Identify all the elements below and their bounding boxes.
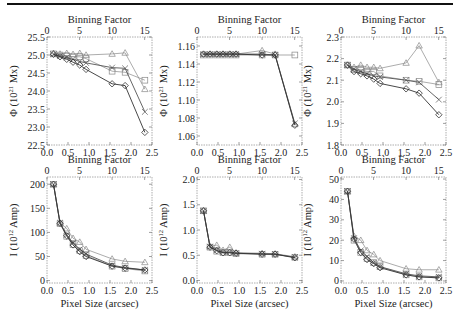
plot-frame [341, 177, 446, 283]
x-tick-label: 0.5 [356, 285, 369, 296]
y-tick-label: 20 [329, 235, 339, 246]
x-tick-label: 2.5 [440, 285, 453, 296]
x-tick-label: 2.0 [419, 285, 432, 296]
top-tick-label: 15 [434, 165, 444, 176]
top-tick-label: 5 [371, 165, 376, 176]
y-axis-title: I (1012 Amp) [301, 203, 314, 257]
figure: 0.00.51.01.52.02.5051015Binning Factor25… [0, 0, 460, 317]
top-tick-label: 0 [339, 165, 344, 176]
y-tick-label: 10 [329, 255, 339, 266]
bottom-axis-title: Pixel Size (arcsec) [354, 298, 433, 310]
x-tick-label: 1.0 [377, 285, 390, 296]
series-diamond [344, 188, 442, 281]
top-axis-title: Binning Factor [362, 154, 426, 165]
x-tick-label: 1.5 [398, 285, 411, 296]
top-tick-label: 10 [401, 165, 411, 176]
x-tick-label: 0.0 [335, 285, 348, 296]
y-tick-label: 30 [329, 214, 339, 225]
series-square [345, 188, 442, 280]
chart-current-bottom-right: 0.00.51.01.52.02.5051015Binning FactorPi… [0, 0, 460, 317]
series-cross [345, 188, 442, 279]
y-tick-label: 40 [329, 194, 339, 205]
y-tick-label: 0 [334, 275, 339, 286]
y-tick-label: 50 [329, 174, 339, 185]
triangle-marker [436, 267, 442, 273]
series-triangle [344, 188, 442, 272]
